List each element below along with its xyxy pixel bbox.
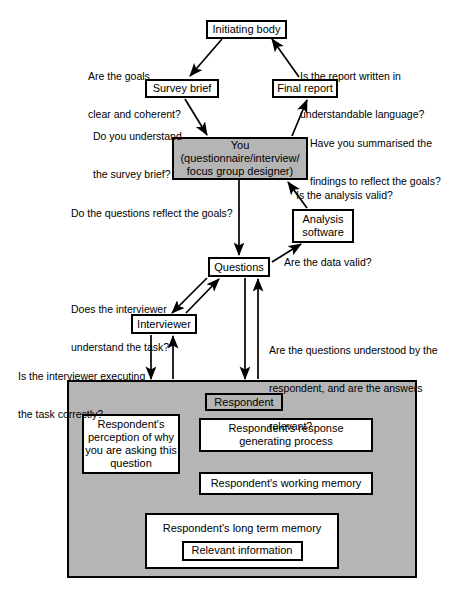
label-questions-reflect-goals: Do the questions reflect the goals? <box>71 207 233 220</box>
label-understand-brief-line2: the survey brief? <box>93 168 182 181</box>
node-questions-label: Questions <box>214 261 264 274</box>
label-questions-understood-line3: relevant? <box>269 420 438 433</box>
node-you-line3: focus group designer) <box>187 165 293 178</box>
node-long-term-memory-label: Respondent's long term memory <box>163 522 322 535</box>
node-perception-line4: question <box>110 457 152 470</box>
node-relevant-information[interactable]: Relevant information <box>182 541 303 561</box>
node-questions[interactable]: Questions <box>208 257 270 277</box>
label-data-valid: Are the data valid? <box>284 256 372 269</box>
label-executing-task-line2: the task correctly? <box>18 408 145 421</box>
node-analysis-software-line2: software <box>302 226 344 239</box>
diagram-canvas: Initiating body Survey brief Final repor… <box>0 0 457 590</box>
label-executing-task: Is the interviewer executing the task co… <box>18 344 145 446</box>
label-understand-brief: Do you understand the survey brief? <box>93 104 182 206</box>
label-goals-clear-line1: Are the goals <box>88 70 181 83</box>
label-analysis-valid: Is the analysis valid? <box>296 189 393 202</box>
label-questions-understood-line1: Are the questions understood by the <box>269 344 438 357</box>
label-understand-brief-line1: Do you understand <box>93 130 182 143</box>
node-you-line2: (questionnaire/interview/ <box>180 152 299 165</box>
arrow-initiating-to-brief <box>190 39 222 76</box>
node-working-memory-label: Respondent's working memory <box>211 477 362 490</box>
label-questions-understood: Are the questions understood by the resp… <box>269 318 438 459</box>
node-you-line1: You <box>231 139 250 152</box>
node-working-memory[interactable]: Respondent's working memory <box>199 472 373 495</box>
arrow-report-to-initiating <box>272 39 299 77</box>
label-summarised-line1: Have you summarised the <box>310 137 441 150</box>
node-long-term-memory[interactable]: Respondent's long term memory Relevant i… <box>145 513 339 569</box>
node-relevant-information-label: Relevant information <box>192 544 293 557</box>
label-questions-understood-line2: respondent, and are the answers <box>269 382 438 395</box>
label-executing-task-line1: Is the interviewer executing <box>18 370 145 383</box>
arrow-questions-to-interviewer <box>172 278 207 313</box>
node-analysis-software[interactable]: Analysis software <box>292 209 354 243</box>
label-summarised-line2: findings to reflect the goals? <box>310 175 441 188</box>
node-you[interactable]: You (questionnaire/interview/ focus grou… <box>172 137 308 180</box>
label-interviewer-task-line1: Does the interviewer <box>71 303 169 316</box>
node-respondent-label: Respondent <box>214 396 273 409</box>
label-report-written-line1: Is the report written in <box>300 70 424 83</box>
node-analysis-software-line1: Analysis <box>303 213 344 226</box>
node-initiating-body-label: Initiating body <box>213 23 281 36</box>
node-initiating-body[interactable]: Initiating body <box>206 20 287 39</box>
arrow-brief-to-you <box>185 99 207 135</box>
arrow-interviewer-to-questions <box>186 279 219 313</box>
